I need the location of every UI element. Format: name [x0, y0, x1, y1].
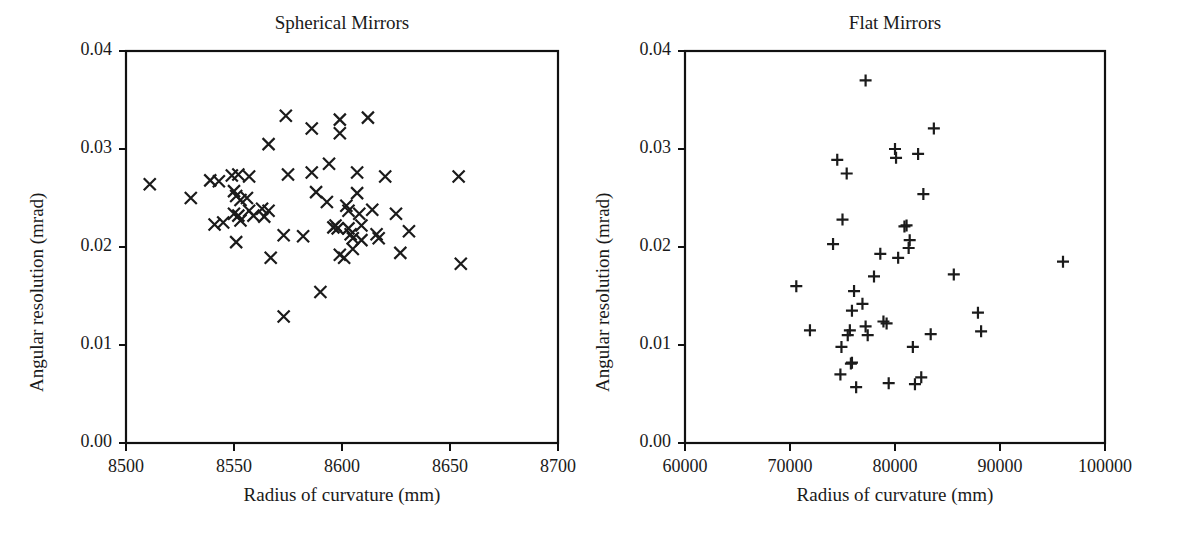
data-point-marker	[948, 268, 960, 280]
axis-ticks-right	[678, 51, 1105, 451]
data-point-marker	[835, 341, 847, 353]
data-point-marker	[862, 329, 874, 341]
data-point-marker	[846, 305, 858, 317]
data-point-marker	[860, 320, 872, 332]
data-point-marker	[903, 242, 915, 254]
data-point-marker	[890, 152, 902, 164]
data-point-marker	[868, 270, 880, 282]
data-point-marker	[1057, 256, 1069, 268]
x-tick-label: 90000	[940, 456, 1060, 477]
chart-panel-flat-mirrors: Flat Mirrors Angular resolution (mrad) R…	[0, 0, 1178, 535]
data-point-marker	[856, 298, 868, 310]
plot-area-right	[0, 0, 1178, 535]
data-point-marker	[909, 378, 921, 390]
data-markers-right	[790, 74, 1069, 393]
data-point-marker	[975, 325, 987, 337]
data-point-marker	[928, 122, 940, 134]
data-point-marker	[834, 368, 846, 380]
data-point-marker	[883, 377, 895, 389]
data-point-marker	[874, 248, 886, 260]
data-point-marker	[804, 324, 816, 336]
x-tick-label: 60000	[625, 456, 745, 477]
data-point-marker	[848, 285, 860, 297]
x-tick-label: 70000	[730, 456, 850, 477]
y-tick-label: 0.03	[593, 137, 671, 158]
data-point-marker	[837, 214, 849, 226]
y-tick-label: 0.02	[593, 235, 671, 256]
data-point-marker	[907, 341, 919, 353]
data-point-marker	[827, 238, 839, 250]
data-point-marker	[790, 280, 802, 292]
data-point-marker	[925, 328, 937, 340]
data-point-marker	[841, 168, 853, 180]
y-tick-label: 0.00	[593, 431, 671, 452]
data-point-marker	[972, 307, 984, 319]
x-tick-label: 80000	[835, 456, 955, 477]
data-point-marker	[917, 188, 929, 200]
data-point-marker	[850, 381, 862, 393]
figure-root: Spherical Mirrors Angular resolution (mr…	[0, 0, 1178, 535]
data-point-marker	[901, 219, 913, 231]
data-point-marker	[860, 74, 872, 86]
plot-frame-right	[685, 51, 1105, 443]
data-point-marker	[912, 148, 924, 160]
data-point-marker	[845, 358, 857, 370]
x-tick-label: 100000	[1045, 456, 1165, 477]
data-point-marker	[831, 154, 843, 166]
y-tick-label: 0.01	[593, 333, 671, 354]
y-tick-label: 0.04	[593, 39, 671, 60]
data-point-marker	[892, 252, 904, 264]
data-point-marker	[915, 371, 927, 383]
